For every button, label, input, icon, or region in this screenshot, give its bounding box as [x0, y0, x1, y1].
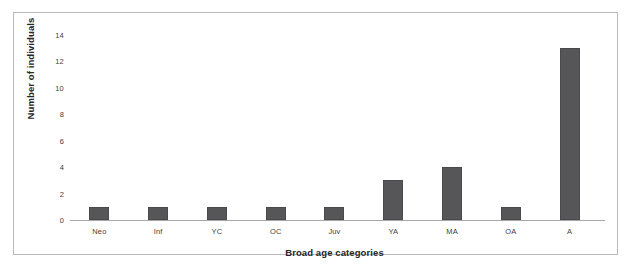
bar-group: OC — [246, 35, 305, 220]
x-axis-title: Broad age categories — [70, 247, 599, 258]
x-axis-line — [70, 220, 605, 221]
y-axis-title: Number of individuals — [25, 4, 36, 134]
bar[interactable] — [89, 207, 109, 220]
bar-group: Inf — [129, 35, 188, 220]
y-axis-tick-label: 6 — [60, 136, 64, 145]
x-axis-tick-label: OA — [505, 227, 516, 236]
x-axis-tick-label: YC — [212, 227, 223, 236]
bar[interactable] — [501, 207, 521, 220]
bar-group: Neo — [70, 35, 129, 220]
bar-chart-figure: 02468101214 Number of individuals NeoInf… — [0, 0, 631, 277]
y-axis-tick-label: 14 — [55, 31, 64, 40]
bar-group: OA — [481, 35, 540, 220]
bar[interactable] — [207, 207, 227, 220]
bar[interactable] — [560, 48, 580, 220]
bar-group: YC — [188, 35, 247, 220]
x-axis-tick-label: Juv — [328, 227, 340, 236]
y-axis-tick-label: 4 — [60, 163, 64, 172]
y-axis-tick-label: 10 — [55, 83, 64, 92]
bar-group: MA — [423, 35, 482, 220]
x-axis-tick-label: OC — [270, 227, 281, 236]
bar-group: YA — [364, 35, 423, 220]
bar[interactable] — [383, 180, 403, 220]
x-axis-tick-label: MA — [446, 227, 457, 236]
bar-group: A — [540, 35, 599, 220]
bar[interactable] — [442, 167, 462, 220]
plot-area: NeoInfYCOCJuvYAMAOAA — [70, 35, 599, 220]
y-axis-tick-label: 12 — [55, 57, 64, 66]
y-axis-tick-label: 8 — [60, 110, 64, 119]
x-axis-tick-label: YA — [388, 227, 398, 236]
bar[interactable] — [324, 207, 344, 220]
y-axis-tick-label: 0 — [60, 216, 64, 225]
x-axis-tick-label: Neo — [92, 227, 106, 236]
y-axis-tick-labels: 02468101214 — [44, 35, 64, 220]
bar-group: Juv — [305, 35, 364, 220]
bar[interactable] — [266, 207, 286, 220]
x-axis-tick-label: A — [567, 227, 572, 236]
chart-frame-border: 02468101214 Number of individuals NeoInf… — [13, 12, 618, 255]
x-axis-tick-label: Inf — [154, 227, 163, 236]
y-axis-tick-label: 2 — [60, 189, 64, 198]
bar[interactable] — [148, 207, 168, 220]
